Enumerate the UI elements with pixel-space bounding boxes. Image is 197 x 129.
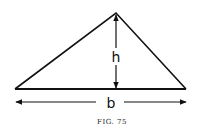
height-indicator: h (112, 15, 121, 88)
triangle-sides (15, 13, 186, 89)
base-indicator: b (16, 95, 186, 111)
height-label: h (112, 49, 121, 65)
figure-caption: FIG. 75 (97, 118, 127, 126)
triangle (15, 13, 186, 89)
base-label: b (107, 95, 116, 111)
triangle-diagram: h b FIG. 75 (0, 0, 197, 129)
